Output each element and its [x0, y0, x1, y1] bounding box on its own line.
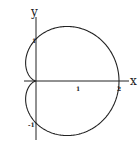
x-tick-2: 2	[117, 86, 121, 92]
x-tick-1: 1	[76, 86, 80, 92]
y-axis-label: y	[31, 6, 38, 18]
cardioid-plot	[0, 0, 140, 147]
x-axis-label: x	[130, 75, 137, 87]
y-tick-neg1: -1	[28, 122, 35, 128]
y-tick-1: 1	[32, 38, 36, 44]
